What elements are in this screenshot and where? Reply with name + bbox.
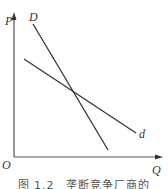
origin-label: O — [2, 159, 11, 171]
curve-label-d: d — [139, 128, 145, 140]
curve-label-D: D — [29, 11, 38, 23]
diagram-canvas — [0, 0, 168, 189]
figure-caption: 图 1.2 垄断竞争厂商的 — [0, 176, 168, 189]
x-axis-label: Q — [152, 164, 161, 176]
demand-curve-d — [24, 59, 136, 133]
y-axis-label: P — [5, 15, 12, 27]
x-axis-arrow-icon — [155, 155, 163, 160]
demand-curve-D — [33, 24, 108, 150]
